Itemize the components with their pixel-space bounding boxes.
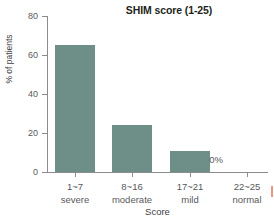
bar-severe[interactable] (55, 45, 95, 172)
plot-area (47, 16, 268, 172)
x-category-mild-range: 17~21 (159, 180, 221, 193)
x-axis-title: Score (47, 206, 268, 217)
shim-score-bar-chart: SHIM score (1-25) % of patients 0 20 40 … (0, 0, 274, 222)
bar-moderate[interactable] (112, 125, 152, 172)
x-category-normal-severity: normal (216, 193, 274, 206)
x-tick-moderate (132, 172, 133, 177)
y-tick-label-20: 20 (14, 128, 38, 138)
x-category-severe-severity: severe (44, 193, 106, 206)
x-category-normal: 22~25 normal (216, 180, 274, 206)
x-tick-severe (75, 172, 76, 177)
x-category-mild: 17~21 mild (159, 180, 221, 206)
x-tick-mild (190, 172, 191, 177)
y-tick-label-0: 0 (14, 167, 38, 177)
x-tick-normal (247, 172, 248, 177)
x-category-normal-range: 22~25 (216, 180, 274, 193)
y-tick-label-80: 80 (14, 11, 38, 21)
scan-edge-mark-1 (271, 186, 273, 197)
x-category-severe: 1~7 severe (44, 180, 106, 206)
x-category-moderate-severity: moderate (101, 193, 163, 206)
y-axis-title: % of patients (4, 23, 14, 95)
chart-title: SHIM score (1-25) (104, 4, 234, 16)
x-category-moderate-range: 8~16 (101, 180, 163, 193)
x-category-moderate: 8~16 moderate (101, 180, 163, 206)
bar-value-normal: 0% (196, 154, 236, 165)
y-tick-0 (42, 172, 47, 173)
y-tick-label-60: 60 (14, 50, 38, 60)
x-axis-line (47, 172, 268, 173)
x-category-mild-severity: mild (159, 193, 221, 206)
x-category-severe-range: 1~7 (44, 180, 106, 193)
y-tick-label-40: 40 (14, 89, 38, 99)
